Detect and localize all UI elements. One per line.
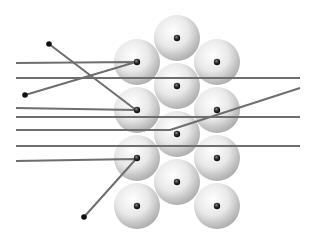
- nucleus-dot: [134, 203, 140, 209]
- nucleus-dot: [174, 35, 180, 41]
- nucleus-dot: [174, 131, 180, 137]
- nucleus-dot: [214, 203, 220, 209]
- atom-scattering-diagram: [0, 0, 317, 246]
- nucleus-dot: [214, 59, 220, 65]
- nucleus-dot: [214, 107, 220, 113]
- nucleus-dot: [214, 155, 220, 161]
- path-endpoint-dot: [46, 41, 52, 47]
- nucleus-dot: [174, 83, 180, 89]
- nucleus-dot: [134, 107, 140, 113]
- diagram-svg: [0, 0, 317, 246]
- path-endpoint-dot: [22, 92, 28, 98]
- nucleus-dot: [134, 59, 140, 65]
- path-endpoint-dot: [81, 214, 87, 220]
- atom-spheres: [114, 15, 240, 229]
- nucleus-dot: [134, 155, 140, 161]
- nucleus-dot: [174, 179, 180, 185]
